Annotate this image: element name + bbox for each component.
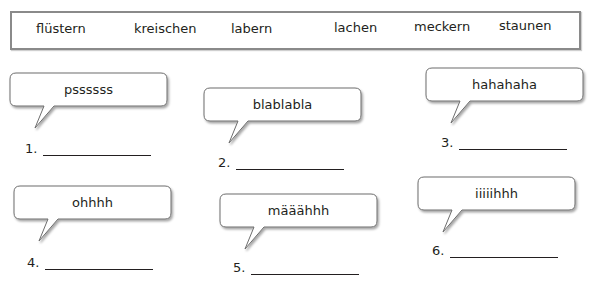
answer-field-5[interactable]: 5. — [233, 260, 359, 275]
answer-blank[interactable] — [251, 262, 359, 275]
exercise-number: 2. — [218, 155, 230, 170]
exercise-number: 1. — [25, 141, 37, 156]
answer-blank[interactable] — [43, 143, 151, 156]
answer-field-6[interactable]: 6. — [432, 243, 558, 258]
bubble-sound-text: hahahaha — [426, 68, 583, 101]
bubble-sound-text: määähhh — [220, 194, 377, 227]
exercise-number: 4. — [27, 255, 39, 270]
speech-bubble-3: hahahaha — [426, 68, 583, 108]
answer-blank[interactable] — [236, 157, 344, 170]
speech-bubble-6: iiiiihhh — [418, 177, 575, 217]
word-bank-item: lachen — [334, 20, 377, 35]
bubble-sound-text: pssssss — [10, 73, 167, 106]
bubble-sound-text: blablabla — [204, 88, 361, 121]
answer-field-2[interactable]: 2. — [218, 155, 344, 170]
speech-bubble-2: blablabla — [204, 88, 361, 128]
word-bank-item: staunen — [499, 18, 552, 33]
bubble-sound-text: iiiiihhh — [418, 177, 575, 210]
answer-field-1[interactable]: 1. — [25, 141, 151, 156]
word-bank-item: flüstern — [36, 21, 86, 36]
answer-blank[interactable] — [45, 257, 153, 270]
answer-blank[interactable] — [459, 137, 567, 150]
exercise-number: 5. — [233, 260, 245, 275]
word-bank-box — [10, 11, 581, 50]
word-bank-item: meckern — [414, 19, 470, 34]
exercise-number: 6. — [432, 243, 444, 258]
speech-bubble-5: määähhh — [220, 194, 377, 234]
answer-field-3[interactable]: 3. — [441, 135, 567, 150]
word-bank-item: kreischen — [134, 21, 197, 36]
answer-blank[interactable] — [450, 245, 558, 258]
bubble-sound-text: ohhhh — [14, 186, 171, 219]
word-bank-item: labern — [231, 21, 272, 36]
exercise-number: 3. — [441, 135, 453, 150]
answer-field-4[interactable]: 4. — [27, 255, 153, 270]
speech-bubble-4: ohhhh — [14, 186, 171, 226]
speech-bubble-1: pssssss — [10, 73, 167, 113]
